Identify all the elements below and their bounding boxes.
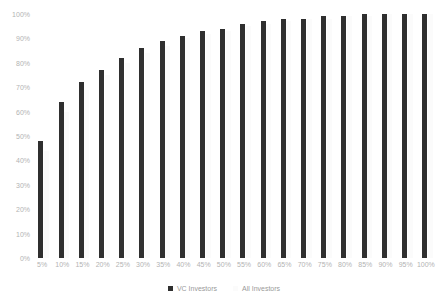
x-axis-tick-label: 15% <box>75 261 89 268</box>
y-axis-tick-label: 10% <box>16 230 30 237</box>
y-axis-tick-label: 40% <box>16 157 30 164</box>
bar-vc-investors[interactable] <box>402 14 407 258</box>
bar-all-investors[interactable] <box>185 38 190 258</box>
bar-all-investors[interactable] <box>226 31 231 258</box>
x-axis-tick-label: 35% <box>156 261 170 268</box>
bar-all-investors[interactable] <box>286 21 291 258</box>
bar-group <box>420 14 440 258</box>
bar-vc-investors[interactable] <box>200 31 205 258</box>
bar-vc-investors[interactable] <box>220 29 225 258</box>
x-axis-tick-label: 90% <box>378 261 392 268</box>
bar-all-investors[interactable] <box>105 75 110 258</box>
bar-vc-investors[interactable] <box>119 58 124 258</box>
bar-group <box>198 14 218 258</box>
bar-group <box>97 14 117 258</box>
y-axis-tick-label: 0% <box>20 255 30 262</box>
bar-vc-investors[interactable] <box>362 14 367 258</box>
legend-item[interactable]: VC Investors <box>168 285 217 292</box>
legend-label: All Investors <box>242 285 280 292</box>
y-axis-tick-label: 90% <box>16 35 30 42</box>
bar-group <box>278 14 298 258</box>
x-axis-tick-label: 45% <box>197 261 211 268</box>
y-axis-tick-label: 60% <box>16 108 30 115</box>
bar-group <box>76 14 96 258</box>
x-axis-tick-label: 60% <box>257 261 271 268</box>
y-axis-tick-label: 30% <box>16 181 30 188</box>
bar-vc-investors[interactable] <box>301 19 306 258</box>
legend-item[interactable]: All Investors <box>233 285 280 292</box>
x-axis-tick-label: 75% <box>318 261 332 268</box>
bar-group <box>177 14 197 258</box>
bar-group <box>379 14 399 258</box>
bar-group <box>157 14 177 258</box>
x-axis-tick-label: 20% <box>96 261 110 268</box>
bar-all-investors[interactable] <box>44 151 49 258</box>
x-axis: 5%10%15%20%25%30%35%40%45%50%55%60%65%70… <box>36 261 440 275</box>
bar-vc-investors[interactable] <box>261 21 266 258</box>
bar-group <box>319 14 339 258</box>
x-axis-tick-label: 95% <box>399 261 413 268</box>
bar-vc-investors[interactable] <box>79 82 84 258</box>
bar-vc-investors[interactable] <box>341 16 346 258</box>
x-axis-tick-label: 85% <box>358 261 372 268</box>
x-axis-tick-label: 30% <box>136 261 150 268</box>
plot-frame <box>36 14 440 258</box>
bar-all-investors[interactable] <box>125 63 130 258</box>
bar-vc-investors[interactable] <box>59 102 64 258</box>
bar-all-investors[interactable] <box>246 26 251 258</box>
bar-group <box>56 14 76 258</box>
bar-vc-investors[interactable] <box>99 70 104 258</box>
bar-all-investors[interactable] <box>367 16 372 258</box>
bar-all-investors[interactable] <box>266 24 271 258</box>
legend-swatch-icon <box>233 286 238 291</box>
bar-group <box>238 14 258 258</box>
y-axis-tick-label: 50% <box>16 133 30 140</box>
bar-group <box>218 14 238 258</box>
bar-all-investors[interactable] <box>347 16 352 258</box>
x-axis-tick-label: 80% <box>338 261 352 268</box>
bar-all-investors[interactable] <box>84 90 89 258</box>
bar-vc-investors[interactable] <box>422 14 427 258</box>
bar-group <box>36 14 56 258</box>
bar-group <box>117 14 137 258</box>
bar-all-investors[interactable] <box>165 46 170 258</box>
y-axis: 0%10%20%30%40%50%60%70%80%90%100% <box>0 14 33 258</box>
chart-legend: VC InvestorsAll Investors <box>0 285 448 292</box>
bar-vc-investors[interactable] <box>281 19 286 258</box>
bar-all-investors[interactable] <box>387 14 392 258</box>
bar-all-investors[interactable] <box>428 14 433 258</box>
legend-swatch-icon <box>168 286 173 291</box>
bar-all-investors[interactable] <box>327 19 332 258</box>
bar-vc-investors[interactable] <box>382 14 387 258</box>
bar-vc-investors[interactable] <box>38 141 43 258</box>
bar-all-investors[interactable] <box>145 53 150 258</box>
bar-vc-investors[interactable] <box>240 24 245 258</box>
bar-all-investors[interactable] <box>206 34 211 258</box>
legend-label: VC Investors <box>177 285 217 292</box>
bar-all-investors[interactable] <box>64 112 69 258</box>
y-axis-tick-label: 20% <box>16 206 30 213</box>
bar-all-investors[interactable] <box>408 14 413 258</box>
bar-vc-investors[interactable] <box>321 16 326 258</box>
plot-area <box>36 14 440 258</box>
x-axis-tick-label: 25% <box>116 261 130 268</box>
bar-vc-investors[interactable] <box>160 41 165 258</box>
x-axis-tick-label: 55% <box>237 261 251 268</box>
x-axis-tick-label: 5% <box>37 261 47 268</box>
bar-group <box>299 14 319 258</box>
bar-vc-investors[interactable] <box>180 36 185 258</box>
x-axis-tick-label: 70% <box>298 261 312 268</box>
bar-group <box>258 14 278 258</box>
x-axis-tick-label: 50% <box>217 261 231 268</box>
bar-all-investors[interactable] <box>307 19 312 258</box>
bar-group <box>400 14 420 258</box>
y-axis-tick-label: 100% <box>12 11 30 18</box>
bar-group <box>339 14 359 258</box>
bar-chart: 0%10%20%30%40%50%60%70%80%90%100% 5%10%1… <box>0 0 448 302</box>
x-axis-tick-label: 100% <box>417 261 435 268</box>
y-axis-tick-label: 80% <box>16 59 30 66</box>
bar-group <box>137 14 157 258</box>
y-axis-tick-label: 70% <box>16 84 30 91</box>
bar-vc-investors[interactable] <box>139 48 144 258</box>
x-axis-tick-label: 10% <box>55 261 69 268</box>
